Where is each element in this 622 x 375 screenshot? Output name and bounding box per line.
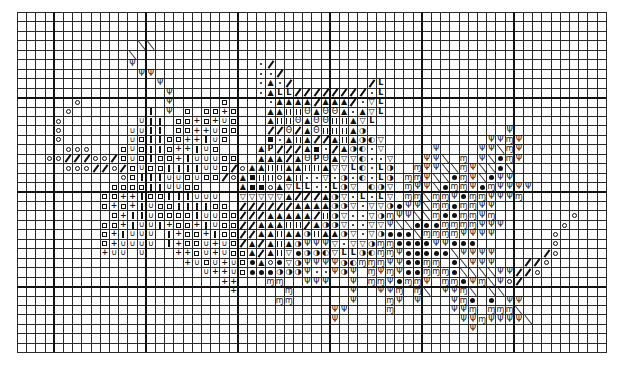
cup-u-icon: ∪: [220, 239, 229, 248]
filled-circle-icon: [487, 173, 496, 182]
curly-m-icon: ɱ: [450, 221, 459, 230]
thick-slash-shape: [239, 230, 246, 239]
half-circle-right-icon: ◑: [321, 221, 330, 230]
curly-m-icon: ɱ: [404, 173, 413, 182]
open-circle-shape: [572, 213, 577, 218]
cup-u-icon: ∪: [137, 230, 146, 239]
psi-arrow-icon: Ψ: [321, 277, 330, 286]
double-bar-icon: [340, 117, 349, 126]
thick-slash-shape: [534, 259, 541, 268]
back-stitch-diagonal-shape: [496, 144, 504, 154]
open-circle-shape: [66, 166, 71, 171]
filled-triangle-icon: ▲: [340, 145, 349, 154]
thick-slash-shape: [515, 277, 522, 286]
thick-slash-icon: [220, 173, 229, 182]
half-circle-right-icon: ◑: [303, 249, 312, 258]
open-triangle-down-icon: ▽: [386, 192, 395, 201]
vertical-bar-icon: [211, 230, 220, 239]
dot-shape: [279, 139, 281, 141]
filled-triangle-icon: ▲: [312, 107, 321, 116]
curly-m-icon: ɱ: [386, 268, 395, 277]
psi-arrow-icon: Ψ: [496, 173, 505, 182]
filled-circle-shape: [443, 185, 448, 190]
filled-circle-icon: [413, 258, 422, 267]
back-stitch-diagonal-shape: [478, 163, 486, 173]
double-bar-icon: [340, 135, 349, 144]
filled-triangle-icon: ▲: [330, 154, 339, 163]
open-circle-shape: [66, 109, 71, 114]
open-square-icon: [128, 173, 137, 182]
open-square-icon: [165, 202, 174, 211]
half-circle-right-icon: ◑: [349, 145, 358, 154]
filled-circle-icon: [450, 202, 459, 211]
open-circle-shape: [75, 166, 80, 171]
filled-circle-icon: [413, 268, 422, 277]
double-bar-icon: [266, 173, 275, 182]
psi-arrow-icon: Ψ: [487, 135, 496, 144]
thick-slash-icon: [330, 88, 339, 97]
double-bar-icon: [330, 117, 339, 126]
half-circle-right-icon: ◑: [294, 268, 303, 277]
psi-arrow-icon: Ψ: [165, 98, 174, 107]
half-circle-right-icon: ◑: [386, 173, 395, 182]
curly-m-icon: ɱ: [505, 145, 514, 154]
vertical-bar-shape: [132, 212, 134, 219]
plus-icon: +: [119, 221, 128, 230]
thick-slash-icon: [119, 164, 128, 173]
open-circle-icon: [238, 164, 247, 173]
psi-arrow-icon: Ψ: [468, 249, 477, 258]
curly-m-icon: ɱ: [441, 221, 450, 230]
back-stitch-diagonal-shape: [450, 248, 458, 258]
vertical-bar-shape: [150, 127, 152, 134]
ringed-o-icon: Θ: [321, 117, 330, 126]
filled-circle-shape: [470, 298, 475, 303]
corner-l-icon: L: [303, 183, 312, 192]
filled-circle-icon: [395, 230, 404, 239]
double-bar-shape: [332, 118, 337, 124]
curly-m-icon: ɱ: [505, 135, 514, 144]
open-square-icon: [238, 249, 247, 258]
filled-triangle-icon: ▲: [257, 221, 266, 230]
open-square-shape: [158, 213, 163, 218]
filled-circle-shape: [415, 223, 420, 228]
filled-triangle-icon: ▲: [266, 211, 275, 220]
vertical-bar-shape: [159, 222, 161, 229]
open-square-shape: [167, 213, 172, 218]
double-bar-icon: [330, 126, 339, 135]
dot-icon: [367, 173, 376, 182]
open-circle-shape: [553, 251, 558, 256]
filled-triangle-icon: ▲: [330, 135, 339, 144]
open-triangle-down-icon: ▽: [238, 192, 247, 201]
open-square-icon: [229, 239, 238, 248]
dot-shape: [362, 101, 364, 103]
open-square-icon: [165, 211, 174, 220]
thick-slash-icon: [238, 230, 247, 239]
psi-arrow-icon: Ψ: [404, 211, 413, 220]
open-square-shape: [222, 223, 227, 228]
filled-square-shape: [314, 147, 319, 152]
cup-u-icon: ∪: [137, 117, 146, 126]
open-square-icon: [229, 211, 238, 220]
open-square-shape: [176, 119, 181, 124]
open-square-shape: [139, 185, 144, 190]
open-circle-icon: [45, 154, 54, 163]
half-circle-right-icon: ◑: [340, 230, 349, 239]
vertical-bar-shape: [150, 174, 152, 181]
dot-icon: [367, 192, 376, 201]
thick-slash-icon: [73, 154, 82, 163]
open-square-shape: [240, 270, 245, 275]
dot-shape: [352, 215, 354, 217]
filled-circle-shape: [489, 175, 494, 180]
curly-m-icon: ɱ: [441, 192, 450, 201]
open-square-shape: [213, 175, 218, 180]
plus-icon: +: [202, 126, 211, 135]
dot-shape: [260, 82, 262, 84]
corner-l-icon: L: [376, 164, 385, 173]
open-circle-icon: [560, 221, 569, 230]
plus-icon: +: [174, 154, 183, 163]
curly-m-icon: ɱ: [413, 164, 422, 173]
psi-arrow-icon: Ψ: [404, 202, 413, 211]
back-stitch-diagonal-shape: [423, 201, 431, 211]
open-square-shape: [185, 119, 190, 124]
curly-m-icon: ɱ: [386, 296, 395, 305]
